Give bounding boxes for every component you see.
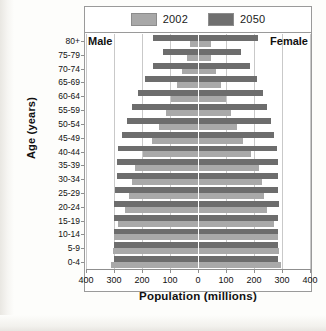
y-tick-label-60-64: 60-64 xyxy=(58,91,80,101)
bar-female-2002-25-29 xyxy=(198,193,264,199)
legend-swatch-2002 xyxy=(131,13,157,26)
bar-female-2002-70-74 xyxy=(198,69,216,75)
male-side-label: Male xyxy=(88,35,112,47)
y-tick-label-65-69: 65-69 xyxy=(58,77,80,87)
bar-female-2002-75-79 xyxy=(198,55,211,61)
bar-male-2002-35-39 xyxy=(135,165,198,171)
bar-male-2002-70-74 xyxy=(182,69,198,75)
y-tick-label-30-34: 30-34 xyxy=(58,174,80,184)
bar-female-2002-40-44 xyxy=(198,151,251,157)
bar-female-2002-15-19 xyxy=(198,221,274,227)
bar-male-2002-60-64 xyxy=(171,96,198,102)
x-tick-mark xyxy=(198,269,199,273)
x-tick-label-100-5: 100 xyxy=(218,275,233,285)
y-tick-mark xyxy=(81,262,84,263)
y-tick-label-0-4: 0-4 xyxy=(68,257,80,267)
y-tick-label-70-74: 70-74 xyxy=(58,64,80,74)
x-tick-label-400-8: 400 xyxy=(302,275,317,285)
y-tick-mark xyxy=(81,152,84,153)
legend-label-2050: 2050 xyxy=(240,13,265,25)
bar-male-2002-80+ xyxy=(190,41,198,47)
y-tick-mark xyxy=(81,124,84,125)
bar-female-2002-55-59 xyxy=(198,110,231,116)
x-tick-label-100-3: 100 xyxy=(162,275,177,285)
x-tick-mark xyxy=(86,269,87,273)
bar-female-2002-60-64 xyxy=(198,96,226,102)
y-tick-label-35-39: 35-39 xyxy=(58,160,80,170)
y-tick-label-55-59: 55-59 xyxy=(58,105,80,115)
bar-female-2002-35-39 xyxy=(198,165,259,171)
y-tick-mark xyxy=(81,179,84,180)
legend-item-2002: 2002 xyxy=(131,13,188,26)
bar-male-2002-50-54 xyxy=(159,124,198,130)
x-tick-label-0-4: 0 xyxy=(195,275,200,285)
x-tick-mark xyxy=(170,269,171,273)
bar-male-2002-65-69 xyxy=(177,82,198,88)
y-tick-label-10-14: 10-14 xyxy=(58,229,80,239)
y-tick-label-15-19: 15-19 xyxy=(58,216,80,226)
legend-swatch-2050 xyxy=(208,13,234,26)
x-axis-tick-labels: 4003002001000100200300400 xyxy=(86,275,310,287)
x-tick-mark xyxy=(226,269,227,273)
x-axis-title: Population (millions) xyxy=(84,290,312,302)
bar-male-2002-20-24 xyxy=(125,207,198,213)
bar-female-2002-30-34 xyxy=(198,179,262,185)
legend-label-2002: 2002 xyxy=(163,13,188,25)
y-tick-label-5-9: 5-9 xyxy=(68,243,80,253)
bar-female-2002-65-69 xyxy=(198,82,221,88)
legend-item-2050: 2050 xyxy=(208,13,265,26)
x-axis-tick-marks xyxy=(86,269,310,274)
x-tick-mark xyxy=(114,269,115,273)
bar-female-2002-45-49 xyxy=(198,138,243,144)
bar-male-2002-55-59 xyxy=(166,110,198,116)
y-tick-mark xyxy=(81,110,84,111)
x-tick-mark xyxy=(310,269,311,273)
bar-female-2002-50-54 xyxy=(198,124,237,130)
bar-male-2002-25-29 xyxy=(129,193,198,199)
y-tick-mark xyxy=(81,193,84,194)
x-tick-label-400-0: 400 xyxy=(78,275,93,285)
y-tick-mark xyxy=(81,221,84,222)
y-tick-label-40-44: 40-44 xyxy=(58,147,80,157)
y-tick-mark xyxy=(81,248,84,249)
y-tick-mark xyxy=(81,165,84,166)
y-tick-mark xyxy=(81,55,84,56)
y-tick-label-45-49: 45-49 xyxy=(58,133,80,143)
y-tick-label-50-54: 50-54 xyxy=(58,119,80,129)
bar-female-2002-10-14 xyxy=(198,234,278,240)
bar-male-2002-10-14 xyxy=(114,234,198,240)
bar-male-2002-40-44 xyxy=(143,151,198,157)
chart-legend: 2002 2050 xyxy=(84,6,312,33)
scan-edge-left xyxy=(0,0,14,331)
y-tick-label-80+: 80+ xyxy=(66,36,80,46)
y-tick-mark xyxy=(81,82,84,83)
bar-female-2002-0-4 xyxy=(198,262,281,268)
x-tick-mark xyxy=(254,269,255,273)
bar-male-2002-75-79 xyxy=(187,55,198,61)
x-tick-label-200-6: 200 xyxy=(246,275,261,285)
y-tick-mark xyxy=(81,69,84,70)
page-background: 2002 2050 Age (years) 80+75-7970-7465-69… xyxy=(0,0,326,331)
bar-female-2002-5-9 xyxy=(198,248,279,254)
gridline-center xyxy=(198,34,199,269)
x-tick-label-300-7: 300 xyxy=(274,275,289,285)
y-tick-mark xyxy=(81,96,84,97)
x-tick-label-200-2: 200 xyxy=(134,275,149,285)
y-tick-label-25-29: 25-29 xyxy=(58,188,80,198)
y-axis-tick-labels: 80+75-7970-7465-6960-6455-5950-5445-4940… xyxy=(30,34,84,269)
y-tick-mark xyxy=(81,41,84,42)
y-tick-mark xyxy=(81,138,84,139)
gridline xyxy=(310,34,311,269)
y-tick-label-75-79: 75-79 xyxy=(58,50,80,60)
scan-edge-bottom xyxy=(0,315,326,331)
x-tick-mark xyxy=(142,269,143,273)
bar-male-2002-5-9 xyxy=(113,248,198,254)
bar-female-2002-20-24 xyxy=(198,207,267,213)
bar-male-2002-0-4 xyxy=(111,262,198,268)
bar-male-2002-45-49 xyxy=(152,138,198,144)
plot-area: Male Female xyxy=(86,34,310,269)
x-tick-mark xyxy=(282,269,283,273)
bar-male-2002-30-34 xyxy=(132,179,198,185)
bar-female-2002-80+ xyxy=(198,41,211,47)
y-tick-mark xyxy=(81,207,84,208)
